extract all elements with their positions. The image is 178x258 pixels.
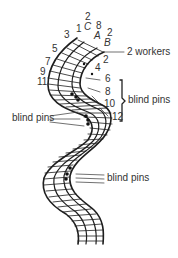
pin-label-2-inner: 2 bbox=[103, 55, 109, 65]
pin-label-4: 4 bbox=[95, 63, 101, 73]
letter-label-b: B bbox=[104, 38, 111, 48]
pin-label-3: 3 bbox=[64, 30, 70, 40]
blind-pins-label-lower-right: blind pins bbox=[107, 173, 149, 183]
pin-label-6: 6 bbox=[105, 74, 111, 84]
braid-inner-left-line bbox=[54, 42, 99, 244]
pin-label-10: 10 bbox=[104, 99, 115, 109]
braid-drawing bbox=[0, 0, 178, 258]
blind-pins-label-upper-right: blind pins bbox=[128, 95, 170, 105]
pin-label-11: 11 bbox=[37, 77, 47, 87]
letter-label-a: A bbox=[94, 31, 101, 41]
pin-label-12: 12 bbox=[112, 112, 123, 122]
braid-diagram: 2 C 1 8 A 2 B 3 5 7 9 11 2 workers 2 4 6… bbox=[0, 0, 178, 258]
pin-label-5: 5 bbox=[52, 44, 58, 54]
pin-label-1: 1 bbox=[76, 24, 82, 34]
letter-label-c: C bbox=[84, 22, 91, 32]
pin-label-8: 8 bbox=[105, 87, 111, 97]
workers-label: 2 workers bbox=[127, 47, 170, 57]
blind-pins-label-left: blind pins bbox=[12, 113, 54, 123]
